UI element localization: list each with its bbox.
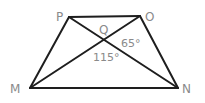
edge-PM bbox=[30, 17, 69, 88]
vertex-label-Q: Q bbox=[99, 23, 108, 37]
vertex-label-O: O bbox=[145, 10, 154, 24]
angle-label-115: 115° bbox=[93, 51, 120, 64]
vertex-label-N: N bbox=[182, 82, 191, 96]
edge-ON bbox=[140, 16, 178, 88]
trapezoid-diagram: P O Q M N 65° 115° bbox=[0, 0, 205, 103]
edge-PO bbox=[69, 16, 140, 17]
vertex-label-M: M bbox=[10, 82, 20, 96]
angle-label-65: 65° bbox=[121, 37, 141, 50]
vertex-label-P: P bbox=[56, 10, 63, 24]
